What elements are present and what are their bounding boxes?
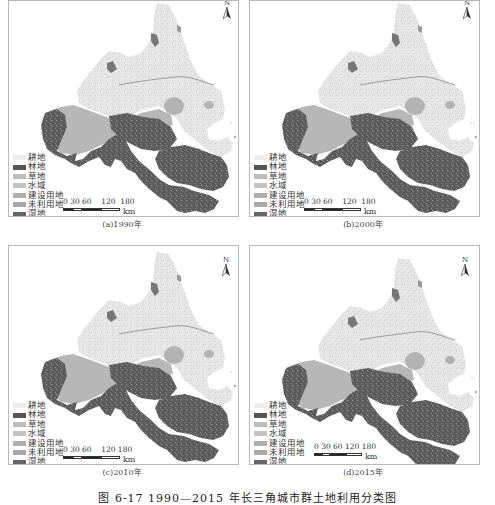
panel-caption-c: (c)2010年 [62, 466, 182, 477]
panel-caption-a: (a)1990年 [62, 218, 182, 229]
scale-bar: 0 30 60 120 180 km [63, 197, 135, 211]
north-arrow-icon: N [219, 256, 233, 278]
scale-bar: 0 30 60 120 180 km [304, 197, 376, 211]
map-panel-2000: N 耕地 林地 草地 水域 建设用地 未利用地 湿地 0 30 60 120 1… [249, 0, 480, 217]
scale-bar: 0 30 60 120 180 km [63, 445, 135, 459]
legend: 耕地 林地 草地 水域 建设用地 未利用地 湿地 [254, 153, 305, 217]
legend: 耕地 林地 草地 水域 建设用地 未利用地 湿地 [13, 153, 64, 217]
north-arrow-icon: N [460, 0, 474, 21]
map-panel-1990: N 耕地 林地 草地 水域 建设用地 未利用地 湿地 0 30 60 120 1… [8, 0, 239, 217]
legend-item-wetland: 湿地 [254, 209, 305, 217]
map-panel-2010: N 耕地 林地 草地 水域 建设用地 未利用地 湿地 0 30 60 120 1… [8, 245, 239, 465]
north-arrow-icon: N [458, 256, 472, 278]
legend-item-wetland: 湿地 [13, 209, 64, 217]
figure-caption: 图 6-17 1990—2015 年长三角城市群土地利用分类图 [0, 489, 495, 505]
map-panel-2015: N 耕地 林地 草地 水域 建设用地 未利用地 湿地 0 30 60 120 1… [249, 245, 480, 465]
panel-caption-b: (b)2000年 [303, 218, 423, 229]
north-arrow-icon: N [220, 0, 234, 21]
legend-item-wetland: 湿地 [13, 457, 64, 465]
scale-bar: 0 30 60 120 180 km [314, 442, 377, 456]
legend-item-wetland: 湿地 [254, 457, 305, 465]
legend: 耕地 林地 草地 水域 建设用地 未利用地 湿地 [254, 401, 305, 465]
panel-caption-d: (d)2015年 [303, 466, 423, 477]
legend: 耕地 林地 草地 水域 建设用地 未利用地 湿地 [13, 401, 64, 465]
